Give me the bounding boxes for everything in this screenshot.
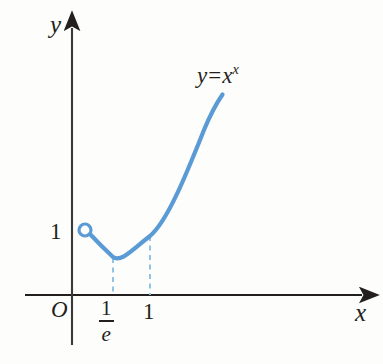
y-axis-label: y (50, 12, 61, 37)
curve-equation-label: y=xx (197, 64, 239, 87)
x-axis-label: x (355, 300, 366, 325)
fraction-one-over-e: 1 e (99, 298, 114, 345)
math-figure-xtox: y x O 1 1 e 1 y=xx (0, 0, 383, 364)
curve-label-lhs: y (197, 63, 207, 88)
open-circle-endpoint (79, 224, 91, 236)
x-axis-tick-label-1: 1 (143, 300, 155, 323)
fraction-numerator: 1 (99, 298, 114, 320)
curve-label-equals: = (207, 63, 222, 88)
curve-label-base: x (222, 63, 232, 88)
x-axis-tick-label-one-over-e: 1 e (99, 298, 114, 345)
curve-y-equals-x-to-the-x (89, 95, 223, 259)
y-axis-tick-label-1: 1 (50, 220, 62, 243)
curve-label-exponent: x (232, 61, 238, 77)
fraction-denominator: e (99, 323, 114, 345)
origin-label: O (51, 298, 68, 321)
